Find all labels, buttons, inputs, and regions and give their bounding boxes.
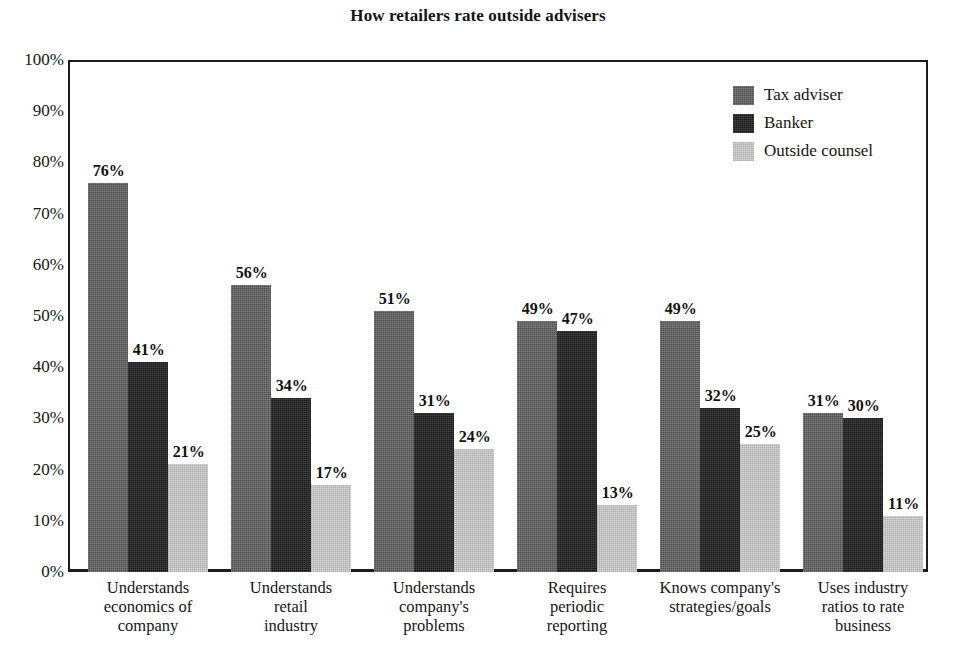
bar-value-label: 32% — [705, 387, 737, 405]
legend-swatch-tax-adviser — [733, 86, 754, 105]
legend-item[interactable]: Banker — [733, 110, 923, 136]
y-axis-tick-label: 70% — [2, 204, 64, 224]
bar-value-label: 30% — [848, 397, 880, 415]
bar[interactable]: 25% — [740, 444, 780, 572]
category-label-line: problems — [356, 616, 512, 635]
bar[interactable]: 34% — [271, 398, 311, 572]
x-axis-category-label: Understandscompany'sproblems — [356, 578, 512, 635]
bar-value-label: 21% — [173, 443, 205, 461]
bar-value-label: 13% — [602, 484, 634, 502]
bar-value-label: 25% — [745, 423, 777, 441]
chart-legend: Tax adviserBankerOutside counsel — [733, 82, 923, 166]
x-axis-category-label: Requiresperiodicreporting — [499, 578, 655, 635]
y-axis-tick-label: 20% — [2, 460, 64, 480]
bar-value-label: 76% — [93, 162, 125, 180]
bar[interactable]: 17% — [311, 485, 351, 572]
bar-value-label: 11% — [888, 495, 919, 513]
bar[interactable]: 41% — [128, 362, 168, 572]
category-label-line: business — [785, 616, 941, 635]
bar[interactable]: 24% — [454, 449, 494, 572]
category-label-line: retail — [213, 597, 369, 616]
bar-value-label: 51% — [379, 290, 411, 308]
y-axis: 0%10%20%30%40%50%60%70%80%90%100% — [0, 0, 64, 652]
y-axis-tick-label: 60% — [2, 255, 64, 275]
bar[interactable]: 32% — [700, 408, 740, 572]
bar-group: 51%31%24% — [374, 60, 494, 572]
category-label-line: Understands — [356, 578, 512, 597]
chart-title: How retailers rate outside advisers — [0, 6, 956, 26]
y-axis-tick-label: 100% — [2, 50, 64, 70]
category-label-line: Understands — [70, 578, 226, 597]
category-label-line: company's — [356, 597, 512, 616]
y-axis-tick-label: 30% — [2, 408, 64, 428]
bar-value-label: 24% — [459, 428, 491, 446]
bar-value-label: 56% — [236, 264, 268, 282]
bar-value-label: 41% — [133, 341, 165, 359]
category-label-line: Requires — [499, 578, 655, 597]
bar[interactable]: 76% — [88, 183, 128, 572]
category-label-line: economics of — [70, 597, 226, 616]
category-label-line: strategies/goals — [642, 597, 798, 616]
bar[interactable]: 56% — [231, 285, 271, 572]
bar[interactable]: 21% — [168, 464, 208, 572]
bar-group: 56%34%17% — [231, 60, 351, 572]
category-label-line: company — [70, 616, 226, 635]
bar-value-label: 31% — [419, 392, 451, 410]
category-label-line: Understands — [213, 578, 369, 597]
bar[interactable]: 51% — [374, 311, 414, 572]
category-label-line: reporting — [499, 616, 655, 635]
y-axis-tick-label: 40% — [2, 357, 64, 377]
bar[interactable]: 31% — [803, 413, 843, 572]
legend-swatch-banker — [733, 114, 754, 133]
chart-container: How retailers rate outside advisers 0%10… — [0, 0, 956, 652]
bar[interactable]: 13% — [597, 505, 637, 572]
y-axis-tick-label: 80% — [2, 152, 64, 172]
y-axis-tick-label: 90% — [2, 101, 64, 121]
bar[interactable]: 30% — [843, 418, 883, 572]
bar-value-label: 47% — [562, 310, 594, 328]
bar[interactable]: 11% — [883, 516, 923, 572]
x-axis-category-label: Understandseconomics ofcompany — [70, 578, 226, 635]
x-axis-category-labels: Understandseconomics ofcompanyUnderstand… — [68, 578, 928, 652]
x-axis-category-label: Uses industryratios to ratebusiness — [785, 578, 941, 635]
y-axis-tick-label: 50% — [2, 306, 64, 326]
bar-group: 76%41%21% — [88, 60, 208, 572]
x-axis-category-label: Knows company'sstrategies/goals — [642, 578, 798, 616]
bar[interactable]: 49% — [517, 321, 557, 572]
category-label-line: ratios to rate — [785, 597, 941, 616]
legend-item[interactable]: Tax adviser — [733, 82, 923, 108]
category-label-line: Knows company's — [642, 578, 798, 597]
legend-swatch-outside-counsel — [733, 142, 754, 161]
bar-group: 49%47%13% — [517, 60, 637, 572]
legend-item-label: Outside counsel — [764, 141, 873, 161]
legend-item-label: Tax adviser — [764, 85, 843, 105]
x-axis-category-label: Understandsretailindustry — [213, 578, 369, 635]
bar-value-label: 34% — [276, 377, 308, 395]
bar[interactable]: 49% — [660, 321, 700, 572]
bar[interactable]: 47% — [557, 331, 597, 572]
bar-value-label: 49% — [522, 300, 554, 318]
legend-item-label: Banker — [764, 113, 813, 133]
bar-value-label: 17% — [316, 464, 348, 482]
category-label-line: Uses industry — [785, 578, 941, 597]
category-label-line: periodic — [499, 597, 655, 616]
bar[interactable]: 31% — [414, 413, 454, 572]
y-axis-tick-label: 10% — [2, 511, 64, 531]
category-label-line: industry — [213, 616, 369, 635]
bar-value-label: 49% — [665, 300, 697, 318]
bar-value-label: 31% — [808, 392, 840, 410]
legend-item[interactable]: Outside counsel — [733, 138, 923, 164]
y-axis-tick-label: 0% — [2, 562, 64, 582]
